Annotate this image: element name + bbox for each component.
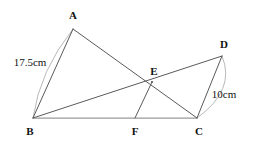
measure-label-ab: 17.5cm [14,57,47,68]
segment-ef [135,82,152,118]
vertex-label-b: B [26,126,33,137]
geometry-figure: A B C D E F 17.5cm 10cm [0,0,256,145]
segment-ac [73,29,197,118]
segment-bd [33,56,222,118]
vertex-label-c: C [195,126,203,137]
vertex-label-f: F [132,126,139,137]
segment-ab [33,29,73,118]
geometry-canvas [0,0,256,145]
vertex-label-d: D [220,39,228,50]
vertex-label-e: E [150,66,157,77]
measure-label-dc: 10cm [212,89,236,100]
vertex-label-a: A [69,10,77,21]
intersection-point-e [151,81,153,83]
